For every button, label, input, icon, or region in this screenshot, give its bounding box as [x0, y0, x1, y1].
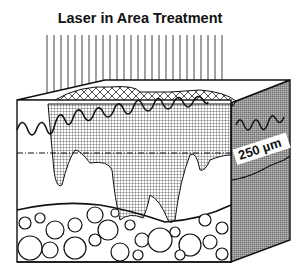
skin-cross-section-diagram: 250 µm — [0, 0, 307, 268]
